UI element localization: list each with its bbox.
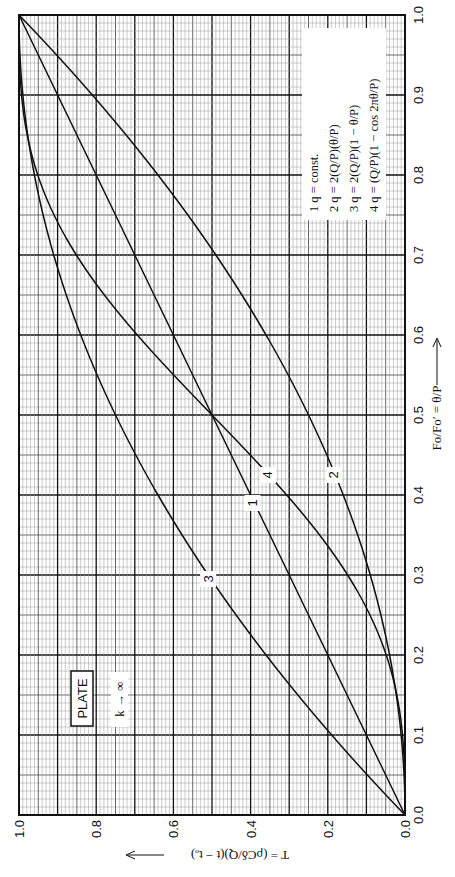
curve-label-1: 1 [245,499,260,506]
plate-label: PLATE [75,678,90,719]
x-tick-label: 0.4 [411,486,426,504]
x-tick-label: 0.9 [411,86,426,104]
x-tick-label: 1.0 [411,6,426,24]
legend-item-2: 2 q = 2(Q/P)(θ/P) [327,124,341,212]
x-axis-ticks: 0.00.10.20.30.40.50.60.70.80.91.0 [411,6,426,824]
x-tick-label: 0.2 [411,646,426,664]
x-tick-label: 0.8 [411,166,426,184]
k-infinity-label: k → ∞ [112,681,127,716]
legend-item-4: 4 q = (Q/P)(1 − cos 2πθ/P) [367,79,381,212]
legend-item-1: 1 q = const. [307,154,321,212]
y-tick-label: 0.6 [166,820,181,838]
x-tick-label: 0.3 [411,566,426,584]
y-tick-label: 0.2 [321,820,336,838]
legend: 1 q = const.2 q = 2(Q/P)(θ/P)3 q = 2(Q/P… [302,28,386,220]
y-axis-ticks: 0.00.20.40.60.81.0 [12,820,413,838]
chart: 1234 1 q = const.2 q = 2(Q/P)(θ/P)3 q = … [0,0,455,877]
x-tick-label: 0.5 [411,406,426,424]
curve-label-2: 2 [326,471,341,478]
x-axis-arrow [433,338,441,385]
y-tick-label: 1.0 [12,820,27,838]
x-axis-label: Fo/Fo′ = θ/P [429,386,444,451]
y-tick-label: 0.8 [89,820,104,838]
y-axis-arrow [126,851,164,859]
x-tick-label: 0.0 [411,806,426,824]
plate-annotation: PLATE k → ∞ [71,671,128,727]
curve-label-3: 3 [201,575,216,582]
legend-item-3: 3 q = 2(Q/P)(1 − θ/P) [347,105,361,212]
y-tick-label: 0.4 [244,820,259,838]
x-tick-label: 0.7 [411,246,426,264]
y-tick-label: 0.0 [398,820,413,838]
y-axis-label: T = (ρCδ/Q)(t − tₒ) [191,848,289,863]
x-tick-label: 0.6 [411,326,426,344]
x-tick-label: 0.1 [411,726,426,744]
curve-label-4: 4 [260,471,275,478]
